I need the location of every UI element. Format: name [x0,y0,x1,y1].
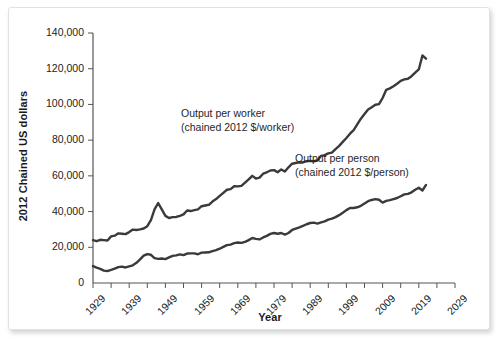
series-line-output-per-worker [93,56,426,242]
annotation-output-per-person: Output per person (chained 2012 $/person… [295,152,409,179]
y-tick-label: 40,000 [26,205,84,217]
annotation-output-per-worker: Output per worker (chained 2012 $/worker… [181,107,294,134]
chart-figure: 2012 Chained US dollars Year 020,00040,0… [0,0,503,351]
annotation-person-line1: Output per person [295,152,409,166]
y-tick-label: 100,000 [26,97,84,109]
y-tick-label: 80,000 [26,133,84,145]
y-tick-label: 120,000 [26,62,84,74]
annotation-worker-line1: Output per worker [181,107,294,121]
y-axis-title: 2012 Chained US dollars [17,61,29,251]
y-tick-label: 60,000 [26,169,84,181]
annotation-person-line2: (chained 2012 $/person) [295,166,409,180]
y-tick-label: 0 [26,276,84,288]
y-tick-label: 140,000 [26,26,84,38]
y-tick-label: 20,000 [26,240,84,252]
annotation-worker-line2: (chained 2012 $/worker) [181,121,294,135]
